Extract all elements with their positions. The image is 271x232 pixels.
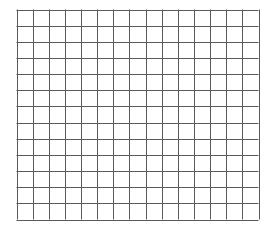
- square-grid: [0, 0, 271, 232]
- grid-canvas: [0, 0, 271, 232]
